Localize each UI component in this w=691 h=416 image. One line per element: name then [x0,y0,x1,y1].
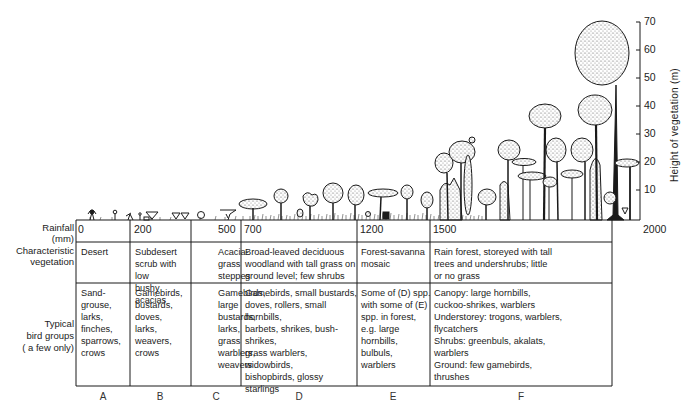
rain-forest-trees [469,21,639,220]
vegetation-cell-d: Broad-leaved deciduous woodland with tal… [245,246,357,282]
desert-shrubs [88,210,236,220]
rainfall-700: 700 [244,223,262,235]
column-letter-e: E [383,391,403,402]
row-label-vegetation: Characteristic vegetation [0,245,74,267]
column-letter-f: F [511,391,531,402]
axis-tick-40: 40 [644,99,656,111]
height-axis [636,22,640,220]
vegetation-cell-e: Forest-savanna mosaic [361,246,429,270]
birds-cell-a: Sand- grouse, larks, finches, sparrows, … [81,287,129,359]
savanna-trees [239,183,433,220]
rainfall-1200: 1200 [360,223,383,235]
rainfall-500: 500 [218,223,236,235]
axis-tick-50: 50 [644,71,656,83]
axis-tick-70: 70 [644,15,656,27]
column-letter-d: D [289,391,309,402]
axis-tick-30: 30 [644,127,656,139]
rainfall-0: 0 [78,223,84,235]
row-label-birds: Typical bird groups ( a few only) [0,318,74,354]
vegetation-cell-a: Desert [81,246,129,258]
birds-cell-f: Canopy: large hornbills, cuckoo-shrikes,… [434,287,612,383]
rainfall-1500: 1500 [433,223,456,235]
column-letter-c: C [206,391,226,402]
birds-cell-b: Gamebirds, bustards, doves, larks, weave… [135,287,191,359]
axis-tick-20: 20 [644,155,656,167]
rainfall-200: 200 [134,223,152,235]
axis-tick-10: 10 [644,183,656,195]
rainfall-2000: 2000 [643,223,666,235]
axis-tick-60: 60 [644,43,656,55]
birds-cell-d: Gamebirds, small bustards, doves, roller… [245,287,357,395]
row-label-rainfall: Rainfall (mm) [0,222,74,244]
column-letter-a: A [93,391,113,402]
birds-cell-e: Some of (D) spp. with some of (E) spp. i… [361,287,431,371]
axis-title: Height of vegetation (m) [669,68,680,182]
vegetation-cell-f: Rain forest, storeyed with tall trees an… [434,246,612,282]
column-letter-b: B [150,391,170,402]
